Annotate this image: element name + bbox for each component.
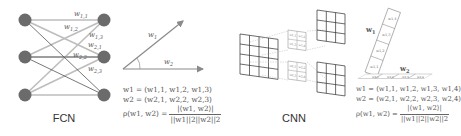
weight-label-w21: w2,1 <box>88 41 102 50</box>
vector-w2-label: w2 <box>164 58 173 67</box>
cnn-kernel-bottom: w2,1 w2,2 w2,3 w2,4 <box>288 61 306 82</box>
cnn-output-grid-bottom <box>317 62 345 96</box>
weight-label-w23: w2,3 <box>88 65 102 74</box>
weight-label-w13: w1,3 <box>89 31 103 40</box>
cnn-kernel-top: w1,1 w1,2 w1,3 w1,4 <box>288 30 306 51</box>
cnn-formula: w1 = (w1,1, w1,2, w1,3, w1,4) w2 = (w2,1… <box>356 85 461 124</box>
vector-w1-arrow <box>123 21 183 69</box>
svg-text:w2,2: w2,2 <box>387 75 394 79</box>
cnn-vector-w1-label: w1 <box>365 25 376 35</box>
fcn-rho-denominator: ||w1||2||w2||2 <box>169 115 221 125</box>
output-node <box>98 89 111 102</box>
fcn-formula-line3: ρ(w1, w2) = |⟨w1, w2⟩| ||w1||2||w2||2 <box>123 104 221 124</box>
cnn-title: CNN <box>282 112 306 124</box>
svg-text:w2,1: w2,1 <box>372 75 379 79</box>
input-node <box>19 51 32 64</box>
cnn-formula-line1: w1 = (w1,1, w1,2, w1,3, w1,4) <box>356 85 461 95</box>
weight-label-w12: w1,2 <box>64 23 78 32</box>
svg-text:w2,4: w2,4 <box>417 75 424 79</box>
fcn-title: FCN <box>53 112 76 124</box>
fcn-rho-lhs: ρ(w1, w2) = <box>123 109 167 118</box>
cnn-formula-line3: ρ(w1, w2) = |⟨w1, w2⟩| ||w1||2||w2||2 <box>356 104 461 124</box>
svg-text:w1,4: w1,4 <box>388 17 397 21</box>
cnn-input-grid <box>240 34 278 79</box>
cnn-rho-lhs: ρ(w1, w2) = <box>356 110 398 118</box>
input-node <box>19 89 32 102</box>
weight-label-w11: w1,1 <box>74 10 88 19</box>
fcn-vector-diagram: w1 w2 <box>123 21 203 69</box>
vector-w1-label: w1 <box>148 31 157 40</box>
cnn-vector-w2-label: w2 <box>399 64 410 74</box>
svg-text:w1,3: w1,3 <box>382 33 391 37</box>
cnn-rho-denominator: ||w1||2||w2||2 <box>400 115 449 125</box>
angle-arc <box>137 58 140 69</box>
output-node <box>98 14 111 27</box>
fcn-rho-numerator: |⟨w1, w2⟩| <box>169 104 221 115</box>
cnn-formula-line2: w2 = (w2,1, w2,2, w2,3, w2,4) <box>356 95 461 105</box>
fcn-formula-line1: w1 = (w1,1, w1,2, w1,3) <box>123 85 221 95</box>
cnn-output-grid-top <box>317 10 345 44</box>
weight-label-w22: w2,2 <box>73 51 87 60</box>
svg-text:w1,2: w1,2 <box>376 49 385 53</box>
svg-text:w2,3: w2,3 <box>402 75 409 79</box>
cnn-rho-fraction: |⟨w1, w2⟩| ||w1||2||w2||2 <box>400 104 449 124</box>
fcn-formula: w1 = (w1,1, w1,2, w1,3) w2 = (w2,1, w2,2… <box>123 85 221 124</box>
cnn-rho-numerator: |⟨w1, w2⟩| <box>400 104 449 115</box>
fcn-rho-fraction: |⟨w1, w2⟩| ||w1||2||w2||2 <box>169 104 221 124</box>
output-node <box>98 51 111 64</box>
fcn-network: w1,1 w1,2 w1,3 w2,1 w2,2 w2,3 FCN <box>19 10 111 124</box>
svg-text:w1,1: w1,1 <box>370 65 379 69</box>
fcn-formula-line2: w2 = (w2,1, w2,2, w2,3) <box>123 95 221 105</box>
input-node <box>19 14 32 27</box>
